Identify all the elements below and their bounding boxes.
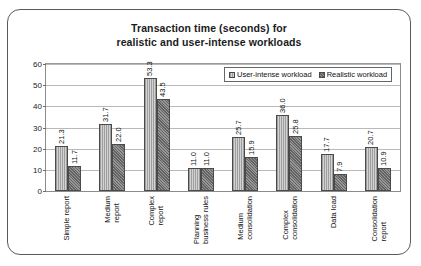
x-axis-label-cell: Complexreport xyxy=(134,194,179,266)
bar-value-label: 25.8 xyxy=(292,120,300,135)
x-axis-label-line: Data load xyxy=(330,196,339,228)
bar-group: 21.311.7 xyxy=(46,64,90,191)
x-axis-label-cell: Planningbusiness rules xyxy=(179,194,224,266)
x-axis-label-line: Consolidation xyxy=(370,196,379,241)
x-axis-label-line: report xyxy=(112,196,121,223)
x-axis-label-line: Medium xyxy=(103,196,112,223)
chart-frame: Transaction time (seconds) for realistic… xyxy=(7,9,411,255)
bar-value-label: 53.3 xyxy=(146,62,154,77)
bar-value-label: 11.7 xyxy=(71,150,79,164)
chart-title-line-1: Transaction time (seconds) for xyxy=(8,22,410,36)
x-axis-label-cell: Mediumreport xyxy=(90,194,135,266)
x-axis-label-line: business rules xyxy=(201,196,210,244)
bar[interactable]: 10.9 xyxy=(378,168,391,191)
y-axis-tick-label: 20 xyxy=(33,144,42,153)
bar-value-label: 43.5 xyxy=(159,82,167,97)
bar[interactable]: 11.7 xyxy=(68,166,81,191)
bar[interactable]: 25.8 xyxy=(289,136,302,191)
y-axis-tick-label: 0 xyxy=(38,187,42,196)
chart-title-line-2: realistic and user-intense workloads xyxy=(8,36,410,50)
y-axis-tick xyxy=(43,191,46,192)
legend-item[interactable]: User-intense workload xyxy=(229,70,312,79)
y-axis-tick-label: 10 xyxy=(33,165,42,174)
bar-group: 11.011.0 xyxy=(179,64,223,191)
bar[interactable]: 22.0 xyxy=(112,144,125,191)
bar-groups: 21.311.731.722.053.343.511.011.025.715.9… xyxy=(46,64,400,191)
x-axis-label-line: Planning xyxy=(192,196,201,244)
bar[interactable]: 11.0 xyxy=(201,168,214,191)
bar[interactable]: 17.7 xyxy=(321,154,334,191)
x-axis-label-cell: Mediumconsolidation xyxy=(223,194,268,266)
y-axis-tick-label: 50 xyxy=(33,81,42,90)
y-axis-tick-label: 60 xyxy=(33,60,42,69)
x-axis-label-line: consolidation xyxy=(290,196,299,240)
bar[interactable]: 7.9 xyxy=(334,174,347,191)
legend-item-label: Realistic workload xyxy=(327,70,387,79)
chart-legend: User-intense workloadRealistic workload xyxy=(224,67,392,82)
x-axis-label-line: report xyxy=(379,196,388,241)
x-axis-label-line: Complex xyxy=(281,196,290,240)
bar[interactable]: 21.3 xyxy=(55,146,68,191)
bar-group: 17.77.9 xyxy=(312,64,356,191)
bar[interactable]: 36.0 xyxy=(276,115,289,191)
legend-swatch-icon xyxy=(319,72,325,78)
bar-group: 36.025.8 xyxy=(267,64,311,191)
x-axis-label-line: consolidation xyxy=(245,196,254,240)
bar-value-label: 10.9 xyxy=(380,151,388,166)
y-axis-tick-label: 30 xyxy=(33,123,42,132)
x-axis-label-cell: Simple report xyxy=(45,194,90,266)
x-axis-label-cell: Data load xyxy=(312,194,357,266)
x-axis-label-cell: Complexconsolidation xyxy=(268,194,313,266)
bar-group: 53.343.5 xyxy=(135,64,179,191)
bar-value-label: 36.0 xyxy=(279,98,287,113)
x-axis-label: Complexconsolidation xyxy=(281,196,298,240)
bar-value-label: 21.3 xyxy=(58,129,66,144)
bar-value-label: 22.0 xyxy=(115,128,123,143)
bar[interactable]: 31.7 xyxy=(99,124,112,191)
bar-group: 31.722.0 xyxy=(90,64,134,191)
plot-area: 0102030405060 21.311.731.722.053.343.511… xyxy=(45,63,401,192)
x-axis-label: Consolidationreport xyxy=(370,196,387,241)
bar[interactable]: 43.5 xyxy=(157,99,170,191)
bar[interactable]: 53.3 xyxy=(144,78,157,191)
bar[interactable]: 25.7 xyxy=(232,137,245,191)
chart-title: Transaction time (seconds) for realistic… xyxy=(8,22,410,49)
y-axis-tick-label: 40 xyxy=(33,102,42,111)
x-axis-label: Complexreport xyxy=(148,196,165,226)
x-axis-labels: Simple reportMediumreportComplexreportPl… xyxy=(45,194,401,266)
legend-item-label: User-intense workload xyxy=(237,70,312,79)
x-axis-label: Data load xyxy=(330,196,339,228)
x-axis-label: Planningbusiness rules xyxy=(192,196,209,244)
bar-value-label: 25.7 xyxy=(235,120,243,135)
x-axis-label-line: report xyxy=(156,196,165,226)
legend-item[interactable]: Realistic workload xyxy=(319,70,387,79)
bar[interactable]: 11.0 xyxy=(188,168,201,191)
bar[interactable]: 15.9 xyxy=(245,157,258,191)
x-axis-label-cell: Consolidationreport xyxy=(357,194,402,266)
bar-value-label: 7.9 xyxy=(336,162,344,172)
bar-group: 20.710.9 xyxy=(356,64,400,191)
legend-swatch-icon xyxy=(229,72,235,78)
bar-group: 25.715.9 xyxy=(223,64,267,191)
x-axis-label: Mediumreport xyxy=(103,196,120,223)
x-axis-label: Mediumconsolidation xyxy=(237,196,254,240)
bar-value-label: 31.7 xyxy=(102,107,110,122)
bar-value-label: 15.9 xyxy=(248,141,256,156)
bar-value-label: 11.0 xyxy=(190,152,198,166)
bar-value-label: 11.0 xyxy=(203,152,211,166)
x-axis-label-line: Simple report xyxy=(63,196,72,241)
bar-value-label: 20.7 xyxy=(367,131,375,146)
bar[interactable]: 20.7 xyxy=(365,147,378,191)
bar-value-label: 17.7 xyxy=(323,137,331,152)
x-axis-label: Simple report xyxy=(63,196,72,241)
